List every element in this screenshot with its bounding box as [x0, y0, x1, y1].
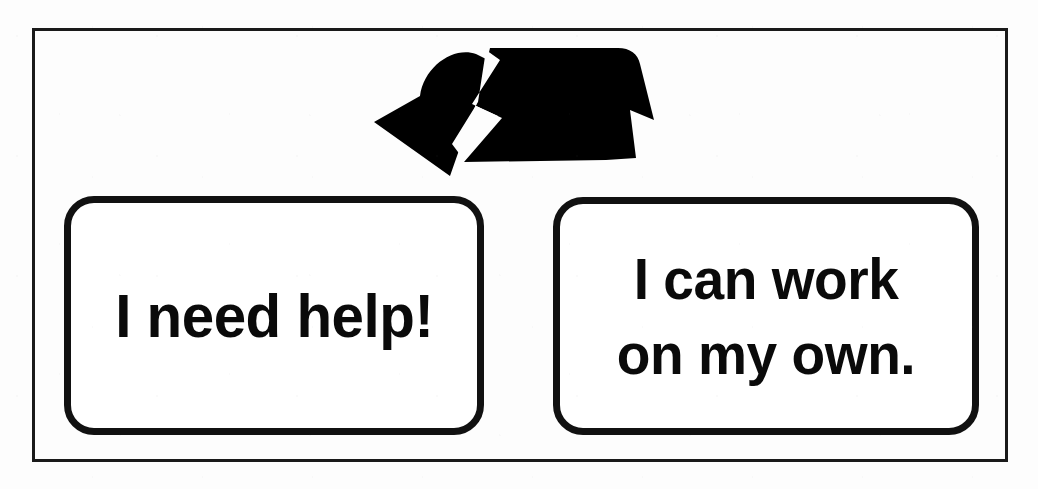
choice-board-poster: I need help! I can work on my own. [0, 0, 1038, 489]
option-label-work-on-my-own: I can work on my own. [604, 241, 929, 392]
double-arrow-ribbon-icon [368, 40, 658, 182]
option-card-work-on-my-own[interactable]: I can work on my own. [553, 197, 979, 435]
option-card-i-need-help[interactable]: I need help! [64, 196, 484, 435]
option-label-i-need-help: I need help! [102, 279, 446, 352]
